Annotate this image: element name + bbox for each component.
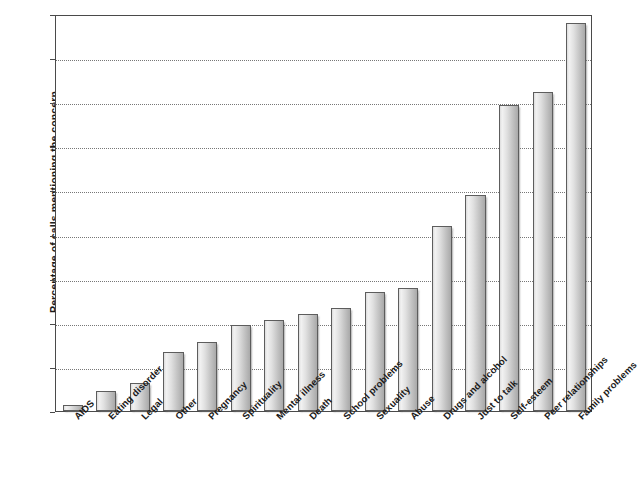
bar	[197, 342, 217, 411]
plot-area	[55, 15, 592, 412]
y-tick-mark	[50, 236, 55, 237]
bar	[533, 92, 553, 411]
y-tick-mark	[50, 324, 55, 325]
y-tick-mark	[50, 368, 55, 369]
y-tick-mark	[50, 412, 55, 413]
y-tick-mark	[50, 103, 55, 104]
bar	[432, 226, 452, 411]
bar	[163, 352, 183, 411]
bar	[566, 23, 586, 411]
bar-series	[56, 16, 591, 411]
y-tick-mark	[50, 15, 55, 16]
x-axis-labels: AIDSEating disorderLegalOtherPregnancySp…	[55, 414, 592, 500]
y-tick-mark	[50, 191, 55, 192]
y-tick-mark	[50, 59, 55, 60]
bar	[331, 308, 351, 411]
plot-inner	[56, 16, 591, 411]
y-tick-mark	[50, 280, 55, 281]
y-tick-mark	[50, 147, 55, 148]
